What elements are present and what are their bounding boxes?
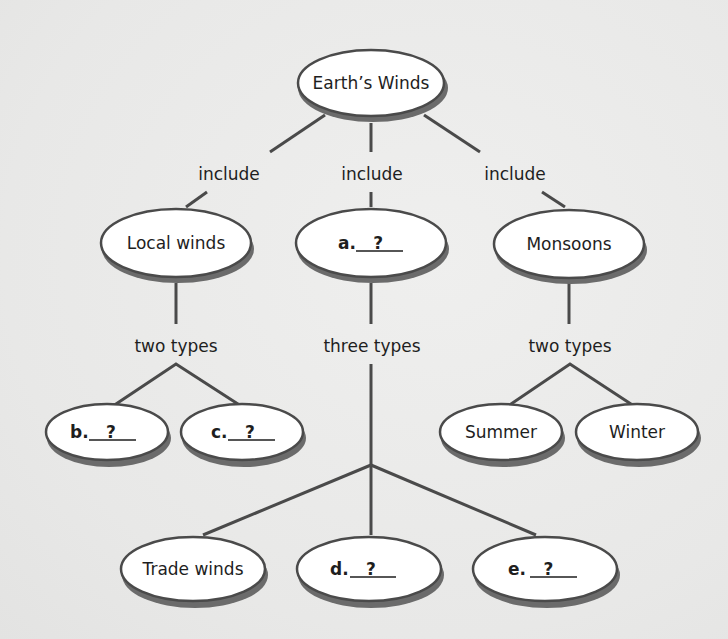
link-label-include-right: include (484, 164, 546, 184)
blank-letter: c. (211, 422, 228, 442)
node-winter: Winter (576, 404, 701, 467)
node-blank-c[interactable]: c. ? (181, 404, 306, 467)
link-label-two-types-left: two types (134, 336, 217, 356)
svg-text:c. ?: c. ? (211, 422, 255, 442)
svg-text:d. ?: d. ? (330, 559, 376, 579)
blank-question-mark: ? (245, 422, 255, 442)
node-label: Local winds (127, 233, 226, 253)
node-blank-b[interactable]: b. ? (46, 404, 171, 467)
connector-a-e (371, 465, 536, 535)
node-label: Earth’s Winds (313, 73, 430, 93)
connector-include-monsoons (542, 192, 565, 207)
blank-question-mark: ? (366, 559, 376, 579)
node-label: Winter (609, 422, 665, 442)
connector-local-branches (113, 364, 241, 406)
svg-text:b. ?: b. ? (70, 422, 116, 442)
node-monsoons: Monsoons (494, 210, 647, 284)
link-label-include-left: include (198, 164, 260, 184)
node-earths-winds: Earth’s Winds (298, 50, 448, 122)
blank-letter: e. (508, 559, 526, 579)
node-blank-e[interactable]: e. ? (473, 537, 620, 608)
connector-root-right (424, 115, 480, 152)
node-trade-winds: Trade winds (121, 537, 268, 608)
svg-text:e. ?: e. ? (508, 559, 553, 579)
blank-letter: d. (330, 559, 349, 579)
link-label-two-types-right: two types (528, 336, 611, 356)
blank-letter: b. (70, 422, 89, 442)
connector-include-local (186, 192, 207, 207)
blank-question-mark: ? (373, 233, 383, 253)
node-local-winds: Local winds (101, 209, 254, 283)
node-summer: Summer (440, 404, 565, 467)
connector-root-left (270, 115, 325, 152)
blank-question-mark: ? (106, 422, 116, 442)
node-blank-a[interactable]: a. ? (296, 209, 449, 283)
link-label-include-mid: include (341, 164, 403, 184)
node-label: Monsoons (526, 234, 611, 254)
concept-map-canvas: include include include two types three … (0, 0, 728, 639)
link-label-three-types: three types (323, 336, 420, 356)
blank-letter: a. (338, 233, 356, 253)
node-blank-d[interactable]: d. ? (297, 537, 444, 608)
connector-monsoon-branches (508, 364, 634, 406)
connector-a-trade (203, 465, 371, 535)
concept-map: include include include two types three … (0, 0, 728, 639)
node-label: Summer (465, 422, 537, 442)
node-label: Trade winds (142, 559, 244, 579)
blank-question-mark: ? (543, 559, 553, 579)
svg-text:a. ?: a. ? (338, 233, 383, 253)
